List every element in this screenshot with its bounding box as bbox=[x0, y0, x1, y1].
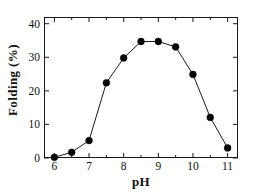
x-tick-label: 11 bbox=[215, 160, 241, 172]
plot-area bbox=[44, 17, 238, 158]
data-point bbox=[190, 71, 197, 78]
data-points bbox=[51, 38, 231, 161]
data-point bbox=[120, 55, 127, 62]
x-tick-label: 7 bbox=[76, 160, 102, 172]
data-point bbox=[155, 38, 162, 45]
data-point bbox=[86, 137, 93, 144]
x-tick-label: 8 bbox=[111, 160, 137, 172]
data-line bbox=[54, 42, 227, 158]
data-point bbox=[224, 145, 231, 152]
data-point bbox=[172, 43, 179, 50]
data-point bbox=[103, 79, 110, 86]
x-tick-label: 9 bbox=[145, 160, 171, 172]
x-tick-label: 10 bbox=[180, 160, 206, 172]
data-point bbox=[207, 114, 214, 121]
data-point bbox=[68, 149, 75, 156]
folding-vs-ph-chart: 010203040 67891011 Folding (%) pH bbox=[0, 0, 264, 192]
data-point bbox=[138, 38, 145, 45]
y-axis-label: Folding (%) bbox=[5, 20, 21, 140]
x-tick-label: 6 bbox=[41, 160, 67, 172]
y-tick-label: 0 bbox=[4, 152, 40, 164]
x-axis-label: pH bbox=[44, 174, 238, 190]
